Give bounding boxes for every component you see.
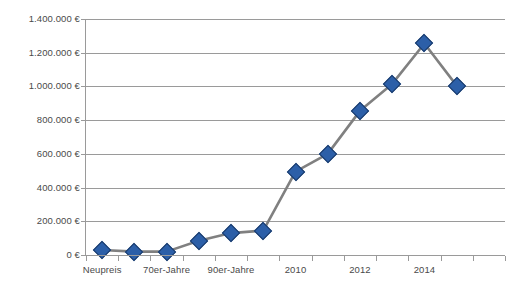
- y-axis-labels: 0 €200.000 €400.000 €600.000 €800.000 €1…: [0, 0, 80, 292]
- y-axis-tick-label: 1.000.000 €: [0, 80, 80, 91]
- x-axis-tick-mark: [376, 256, 377, 261]
- y-axis-tick-label: 600.000 €: [0, 148, 80, 159]
- x-axis-tick-label: 2012: [349, 264, 371, 275]
- x-axis-tick-mark: [118, 256, 119, 261]
- x-axis-tick-mark: [473, 256, 474, 261]
- x-axis-tick-mark: [279, 256, 280, 261]
- y-axis-tick-label: 400.000 €: [0, 182, 80, 193]
- x-axis-tick-mark: [183, 256, 184, 261]
- x-axis-tick-mark: [441, 256, 442, 261]
- y-axis-tick-label: 200.000 €: [0, 215, 80, 226]
- plot-area: [86, 19, 505, 255]
- y-axis-tick-label: 0 €: [0, 249, 80, 260]
- x-axis-tick-mark: [215, 256, 216, 261]
- chart-container: 0 €200.000 €400.000 €600.000 €800.000 €1…: [0, 0, 518, 292]
- x-axis-tick-mark: [86, 256, 87, 261]
- x-axis-tick-mark: [312, 256, 313, 261]
- x-axis-tick-mark: [505, 256, 506, 261]
- x-axis-tick-label: Neupreis: [83, 264, 122, 275]
- x-axis-tick-label: 2010: [285, 264, 307, 275]
- x-axis-tick-label: 70er-Jahre: [143, 264, 190, 275]
- y-axis-tick-label: 800.000 €: [0, 114, 80, 125]
- x-axis-tick-mark: [344, 256, 345, 261]
- x-axis-tick-mark: [408, 256, 409, 261]
- y-axis-tick-label: 1.400.000 €: [0, 13, 80, 24]
- x-axis-tick-label: 90er-Jahre: [208, 264, 255, 275]
- x-axis-tick-label: 2014: [414, 264, 436, 275]
- y-axis-tick-label: 1.200.000 €: [0, 47, 80, 58]
- x-axis-tick-mark: [150, 256, 151, 261]
- x-axis-tick-mark: [247, 256, 248, 261]
- x-axis-line: [86, 255, 505, 256]
- series-line: [86, 19, 505, 255]
